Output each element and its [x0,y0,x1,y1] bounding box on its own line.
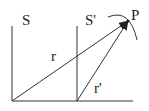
point-p-label: P [131,7,139,23]
point-p-dot [126,19,129,22]
frame-s-prime-label: S' [85,12,96,28]
vector-r-label: r [51,48,56,64]
vector-r-arrow [12,21,128,101]
reference-frames-diagram: S S' P r r' [0,0,149,111]
vector-r-prime-label: r' [94,80,102,96]
frame-s-label: S [22,12,30,28]
vector-r-prime-arrow [77,21,128,101]
